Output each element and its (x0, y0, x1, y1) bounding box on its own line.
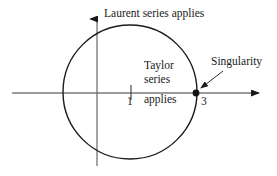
tick-label-1: 1 (127, 96, 133, 108)
complex-plane-convergence-diagram: Laurent series applies Taylor series app… (0, 0, 277, 176)
taylor-series-label-line3: applies (144, 94, 177, 106)
convergence-circle (63, 25, 197, 159)
singularity-dot (193, 90, 200, 97)
diagram-canvas (0, 0, 277, 176)
singularity-label: Singularity (211, 56, 262, 68)
tick-label-3: 3 (201, 96, 207, 108)
taylor-series-label-line2: series (144, 74, 170, 86)
laurent-series-label: Laurent series applies (104, 8, 204, 20)
singularity-leader-arrow (201, 71, 223, 88)
taylor-series-label-line1: Taylor (144, 60, 174, 72)
